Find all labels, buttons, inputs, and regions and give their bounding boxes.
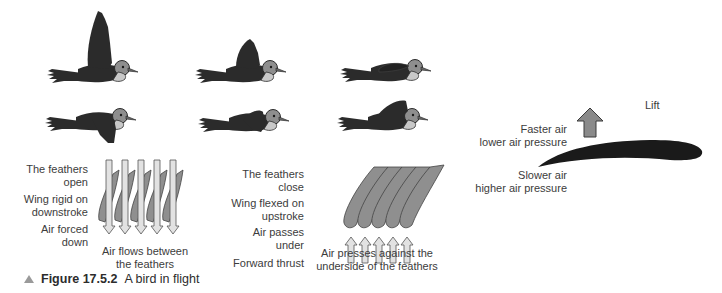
- open-feathers-illustration: [95, 158, 195, 258]
- bird-wings-up-half: [195, 39, 286, 83]
- label-wing-rigid: Wing rigid on downstroke: [24, 193, 88, 219]
- label-line: under: [253, 239, 304, 252]
- label-line: The feathers: [26, 163, 88, 176]
- bird-wings-up-full: [47, 11, 138, 83]
- bird-wings-down-full: [45, 109, 136, 144]
- label-line: upstroke: [231, 210, 304, 223]
- figure-number: Figure 17.5.2: [41, 272, 117, 286]
- label-line: Wing flexed on: [231, 197, 304, 210]
- label-feathers-close: The feathers close: [242, 168, 304, 194]
- caption-line: Air flows between: [100, 245, 190, 258]
- upstroke-caption: Air presses against the underside of the…: [312, 247, 442, 273]
- label-line: Air passes: [253, 226, 304, 239]
- label-line: Forward thrust: [233, 257, 304, 270]
- label-air-passes-under: Air passes under: [253, 226, 304, 252]
- label-forward-thrust: Forward thrust: [233, 257, 304, 270]
- figure-caption: Figure 17.5.2 A bird in flight: [24, 272, 199, 286]
- downstroke-caption: Air flows between the feathers: [100, 245, 190, 271]
- label-line: Air forced: [41, 223, 88, 236]
- label-line: downstroke: [24, 206, 88, 219]
- label-line: close: [242, 181, 304, 194]
- bird-wings-down-half: [198, 110, 289, 133]
- lift-arrow-icon: [577, 108, 603, 137]
- figure-title: A bird in flight: [124, 272, 199, 286]
- bird-wings-folded: [340, 60, 431, 83]
- airfoil-shape: [538, 140, 702, 167]
- label-air-forced-down: Air forced down: [41, 223, 88, 249]
- label-feathers-open: The feathers open: [26, 163, 88, 189]
- triangle-icon: [24, 275, 34, 283]
- caption-line: Air presses against the: [312, 247, 442, 260]
- label-line: open: [26, 176, 88, 189]
- label-line: down: [41, 236, 88, 249]
- bird-wings-raising: [337, 101, 428, 131]
- label-line: Wing rigid on: [24, 193, 88, 206]
- caption-line: underside of the feathers: [312, 260, 442, 273]
- label-wing-flexed: Wing flexed on upstroke: [231, 197, 304, 223]
- caption-line: the feathers: [100, 258, 190, 271]
- airfoil-diagram: [530, 105, 722, 185]
- label-line: The feathers: [242, 168, 304, 181]
